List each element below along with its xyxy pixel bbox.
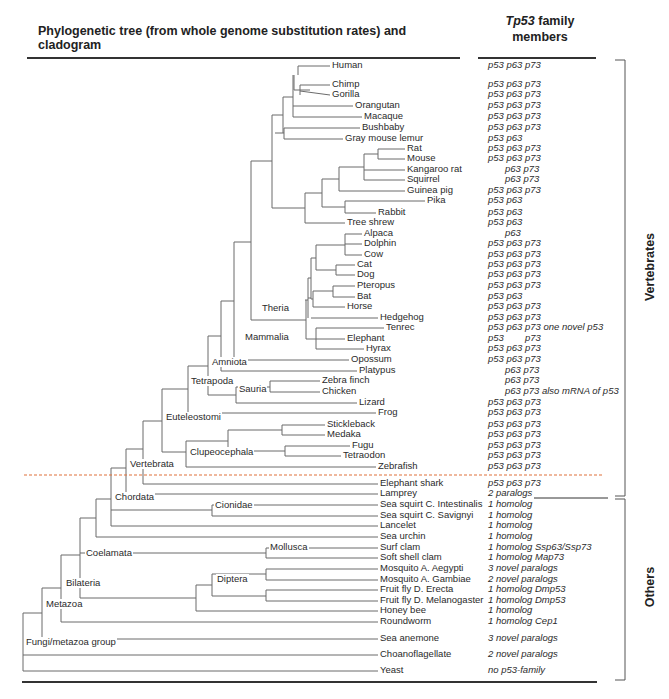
species-label: Hyrax bbox=[366, 343, 391, 353]
species-label: Mouse bbox=[407, 153, 436, 163]
family-members: 1 homolog Dmp53 bbox=[488, 584, 566, 594]
species-label: Squirrel bbox=[407, 174, 440, 184]
species-label: Choanoflagellate bbox=[380, 649, 451, 659]
family-members: p53 p63 p73 bbox=[488, 343, 541, 353]
family-members: no p53-family bbox=[488, 665, 545, 675]
family-members: p53 p63 p73 bbox=[488, 238, 541, 248]
species-label: Bushbaby bbox=[362, 122, 404, 132]
species-label: Chicken bbox=[322, 386, 356, 396]
species-label: Tenrec bbox=[386, 322, 415, 332]
species-label: Orangutan bbox=[355, 100, 400, 110]
family-members: p53 p63 p73 bbox=[488, 354, 541, 364]
family-members: 2 paralogs bbox=[488, 488, 532, 498]
family-members: p53 p63 p73 bbox=[488, 301, 541, 311]
family-members: p53 p63 p73 bbox=[488, 450, 541, 460]
species-label: Sea anemone bbox=[380, 633, 439, 643]
clade-label: Amniota bbox=[211, 357, 248, 367]
species-label: Pika bbox=[427, 195, 445, 205]
clade-label: Mollusca bbox=[269, 542, 309, 552]
species-label: Mosquito A. Aegypti bbox=[380, 563, 463, 573]
clade-label: Bilateria bbox=[65, 578, 101, 588]
clade-label: Euteleostomi bbox=[165, 412, 222, 422]
family-members: p53 p63 p73 one novel p53 bbox=[488, 322, 603, 332]
family-members: p53 p63 p73 bbox=[488, 100, 541, 110]
clade-label: Tetrapoda bbox=[190, 376, 234, 386]
species-label: Macaque bbox=[364, 111, 403, 121]
family-members: p53 p63 bbox=[488, 217, 522, 227]
clade-label: Fungi/metazoa group bbox=[25, 637, 117, 647]
species-label: Tree shrew bbox=[347, 217, 394, 227]
species-label: Frog bbox=[378, 407, 398, 417]
species-label: Sea squirt C. Intestinalis bbox=[380, 499, 482, 509]
family-members: p53 p63 p73 bbox=[488, 111, 541, 121]
family-members: p63 p73 bbox=[505, 174, 539, 184]
family-members: p63 p73 also mRNA of p53 bbox=[505, 386, 619, 396]
clade-label: Diptera bbox=[216, 574, 249, 584]
species-label: Medaka bbox=[327, 429, 361, 439]
family-members: p53 p63 p73 bbox=[488, 89, 541, 99]
species-label: Gorilla bbox=[332, 89, 359, 99]
clade-label: Metazoa bbox=[45, 599, 83, 609]
family-members: 1 homolog bbox=[488, 531, 532, 541]
clade-label: Mammalia bbox=[244, 332, 290, 342]
species-label: Dolphin bbox=[364, 238, 396, 248]
clade-label: Vertebrata bbox=[129, 459, 175, 469]
species-label: Dog bbox=[357, 269, 374, 279]
species-label: Honey bee bbox=[380, 605, 426, 615]
family-members: 1 homolog bbox=[488, 605, 532, 615]
family-members: p53 p63 p73 bbox=[488, 153, 541, 163]
family-members: p53 p63 p73 bbox=[488, 269, 541, 279]
species-label: Horse bbox=[347, 301, 372, 311]
family-members: p53 p63 p73 bbox=[488, 461, 541, 471]
vertebrates-bracket bbox=[615, 60, 625, 496]
phylogenetic-tree bbox=[0, 0, 669, 699]
clade-label: Cionidae bbox=[214, 500, 254, 510]
others-bracket bbox=[615, 499, 625, 680]
family-members: p53 p63 p73 bbox=[488, 429, 541, 439]
species-label: Tetraodon bbox=[343, 450, 385, 460]
family-members: p53 p63 p73 bbox=[488, 407, 541, 417]
family-members: p63 p73 bbox=[505, 375, 539, 385]
family-members: 1 homolog Map73 bbox=[488, 552, 564, 562]
species-label: Sea urchin bbox=[380, 531, 425, 541]
family-members: 1 homolog bbox=[488, 520, 532, 530]
species-label: Fruit fly D. Erecta bbox=[380, 584, 453, 594]
clade-label: Chordata bbox=[114, 492, 155, 502]
species-label: Zebra finch bbox=[322, 375, 370, 385]
family-members: 2 novel paralogs bbox=[488, 649, 558, 659]
family-members: 3 novel paralogs bbox=[488, 563, 558, 573]
clade-label: Sauria bbox=[238, 384, 267, 394]
others-group-label: Others bbox=[643, 562, 657, 612]
species-label: Roundworm bbox=[380, 616, 431, 626]
species-label: Lancelet bbox=[380, 520, 416, 530]
clade-label: Theria bbox=[261, 303, 290, 313]
species-label: Lamprey bbox=[380, 488, 417, 498]
family-members: 1 homolog bbox=[488, 499, 532, 509]
species-label: Opossum bbox=[351, 354, 392, 364]
family-members: p53 p63 p73 bbox=[488, 280, 541, 290]
vertebrates-group-label: Vertebrates bbox=[643, 227, 657, 307]
species-label: Zebrafish bbox=[378, 461, 418, 471]
family-members: 1 homolog Cep1 bbox=[488, 616, 558, 626]
clade-label: Clupeocephala bbox=[189, 447, 254, 457]
species-label: Pteropus bbox=[357, 280, 395, 290]
family-members: p53 p63 p73 bbox=[488, 122, 541, 132]
family-members: 3 novel paralogs bbox=[488, 633, 558, 643]
species-label: Human bbox=[332, 60, 363, 70]
clade-label: Coelamata bbox=[85, 548, 133, 558]
species-label: Yeast bbox=[380, 665, 403, 675]
tree-branch bbox=[300, 91, 330, 95]
family-members: p53 p63 p73 bbox=[488, 60, 541, 70]
species-label: Soft shell clam bbox=[380, 552, 442, 562]
family-members: p53 p63 bbox=[488, 195, 522, 205]
